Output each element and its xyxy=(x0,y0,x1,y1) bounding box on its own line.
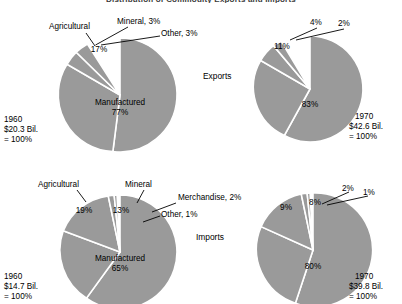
value-imports-1960-manufactured-pct: 65% xyxy=(63,264,177,274)
callout-imports-1960-mineral: Mineral xyxy=(125,180,152,190)
value-imports-1970-agricultural: 9% xyxy=(272,203,300,213)
pie-exports-1960 xyxy=(58,27,177,152)
pie-charts-svg xyxy=(0,0,402,304)
figure-canvas: Distribution of Commodity Exports and Im… xyxy=(0,0,402,304)
callout-exports-1960-mineral: Mineral, 3% xyxy=(117,17,160,27)
section-label-imports: Imports xyxy=(196,232,224,242)
note-exports-1960-amount: $20.3 Bil. xyxy=(4,125,38,135)
callout-imports-1970-other: 1% xyxy=(363,188,375,198)
note-exports-1960-total: = 100% xyxy=(4,135,32,145)
callout-imports-1960-other: Other, 1% xyxy=(161,210,197,220)
slice-exports-1960-manufactured xyxy=(113,38,177,152)
note-imports-1970-year: 1970 xyxy=(355,272,373,282)
note-exports-1970-year: 1970 xyxy=(355,112,373,122)
callout-imports-1970-merchandise: 2% xyxy=(342,184,354,194)
note-exports-1970-amount: $42.6 Bil. xyxy=(349,122,383,132)
note-imports-1970-total: = 100% xyxy=(349,292,377,302)
note-imports-1960-total: = 100% xyxy=(4,292,32,302)
value-imports-1970-mineral: 8% xyxy=(301,198,329,208)
callout-exports-1960-other: Other, 3% xyxy=(161,29,197,39)
value-imports-1960-manufactured-name: Manufactured xyxy=(63,254,177,264)
leader-imports-1960-agricultural xyxy=(77,190,86,202)
value-exports-1960-manufactured-pct: 77% xyxy=(63,108,177,118)
note-exports-1960-year: 1960 xyxy=(4,115,22,125)
note-exports-1970-total: = 100% xyxy=(349,132,377,142)
value-imports-1970-manufactured: 80% xyxy=(286,262,340,272)
value-exports-1970-manufactured: 83% xyxy=(283,100,337,110)
note-imports-1960-year: 1960 xyxy=(4,272,22,282)
value-imports-1960-agricultural: 19% xyxy=(70,206,98,216)
section-label-exports: Exports xyxy=(203,71,231,81)
value-exports-1960-agricultural: 17% xyxy=(84,45,114,55)
callout-exports-1970-other: 2% xyxy=(338,19,350,29)
callout-exports-1970-mineral: 4% xyxy=(310,18,322,28)
note-imports-1970-amount: $39.8 Bil. xyxy=(349,282,383,292)
callout-imports-1960-merchandise: Merchandise, 2% xyxy=(178,193,241,203)
value-imports-1960-mineral: 13% xyxy=(107,206,135,216)
callout-imports-1960-agricultural: Agricultural xyxy=(38,180,79,190)
note-imports-1960-amount: $14.7 Bil. xyxy=(4,282,38,292)
value-exports-1970-agricultural: 11% xyxy=(268,42,296,52)
callout-exports-1960-agricultural: Agricultural xyxy=(49,22,90,32)
value-exports-1960-manufactured-name: Manufactured xyxy=(63,98,177,108)
